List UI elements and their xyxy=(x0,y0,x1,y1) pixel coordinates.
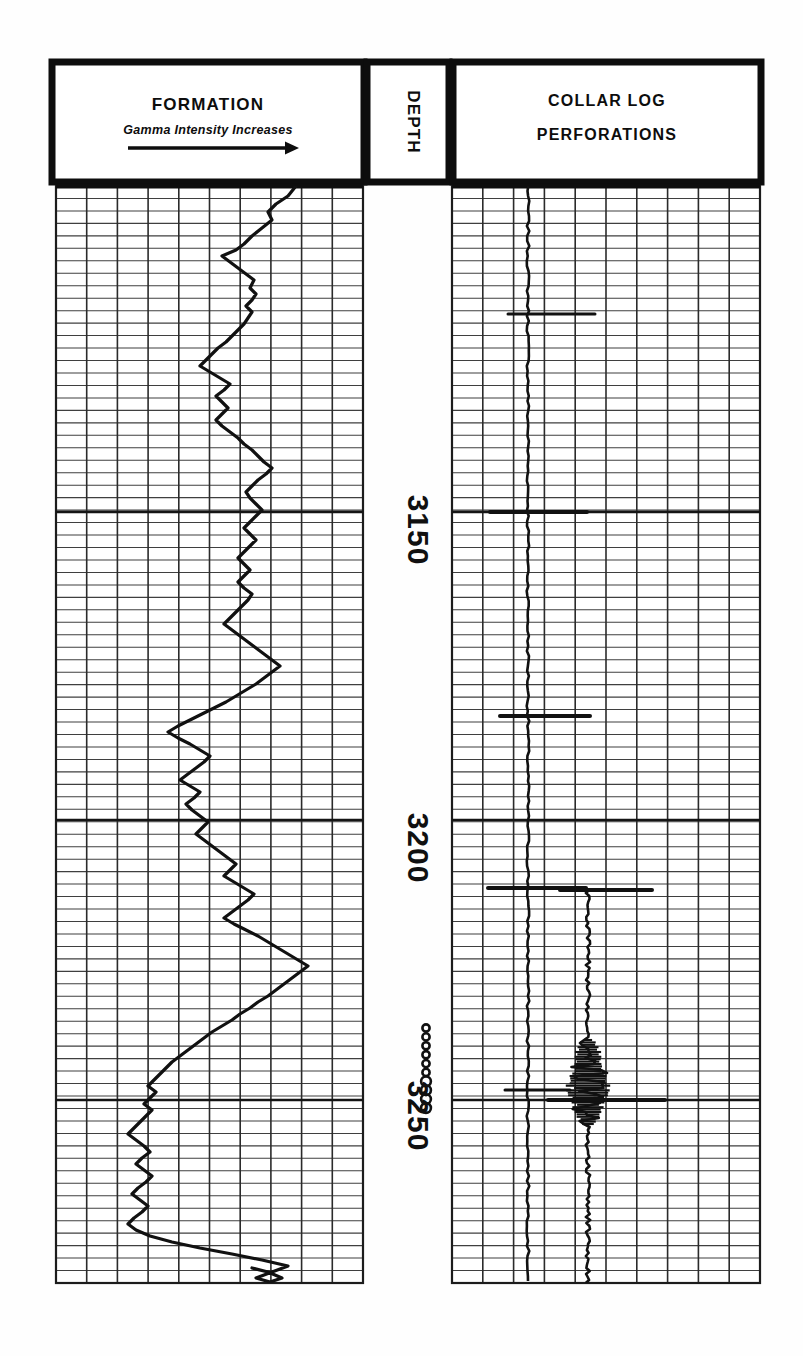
formation-header-box xyxy=(52,62,364,182)
log-canvas: FORMATION Gamma Intensity Increases DEPT… xyxy=(0,0,803,1356)
collar-grid xyxy=(452,186,760,1283)
collar-header-subtitle: PERFORATIONS xyxy=(537,126,677,143)
depth-header-title: DEPTH xyxy=(404,90,423,154)
formation-header-subtitle: Gamma Intensity Increases xyxy=(123,123,292,137)
depth-label: 3200 xyxy=(402,813,435,884)
collar-header-box xyxy=(453,62,761,182)
formation-grid xyxy=(56,186,363,1283)
well-log-chart: FORMATION Gamma Intensity Increases DEPT… xyxy=(0,0,803,1356)
header-row: FORMATION Gamma Intensity Increases DEPT… xyxy=(52,62,761,182)
formation-header-title: FORMATION xyxy=(152,95,264,114)
depth-label: 3150 xyxy=(402,495,435,566)
collar-header-title: COLLAR LOG xyxy=(548,92,666,109)
